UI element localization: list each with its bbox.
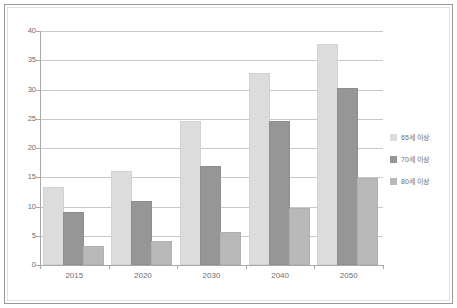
legend-swatch-icon xyxy=(390,156,397,163)
y-axis-line xyxy=(40,31,41,265)
bar xyxy=(43,187,64,265)
bar xyxy=(200,166,221,265)
x-axis-tick-mark xyxy=(246,265,247,269)
bar-group xyxy=(111,31,170,265)
y-axis-tick-mark xyxy=(36,90,40,91)
y-axis-tick-label: 35 xyxy=(12,56,36,64)
x-axis-tick-mark xyxy=(314,265,315,269)
bar xyxy=(317,44,338,265)
y-axis-tick-mark xyxy=(36,31,40,32)
legend-item-label: 70세 이상 xyxy=(401,156,429,163)
legend-item-label: 80세 이상 xyxy=(401,178,429,185)
legend-swatch-icon xyxy=(390,134,397,141)
bar xyxy=(180,121,201,265)
y-axis-tick-label: 25 xyxy=(12,115,36,123)
bar xyxy=(337,88,358,266)
y-axis-tick-mark xyxy=(36,177,40,178)
x-axis-tick-mark xyxy=(177,265,178,269)
bar xyxy=(131,201,152,265)
y-axis-tick-label: 40 xyxy=(12,27,36,35)
legend-item-label: 65세 이상 xyxy=(401,134,429,141)
legend-item: 80세 이상 xyxy=(390,170,452,192)
x-axis-tick-mark xyxy=(109,265,110,269)
legend-item: 70세 이상 xyxy=(390,148,452,170)
bar-group xyxy=(249,31,308,265)
bar xyxy=(357,178,378,265)
bar xyxy=(151,241,172,265)
y-axis-tick-label: 5 xyxy=(12,232,36,240)
y-axis-tick-label: 30 xyxy=(12,86,36,94)
bar xyxy=(83,246,104,265)
chart-figure: 0510152025303540 20152020203020402050 65… xyxy=(0,0,457,308)
y-axis-tick-labels: 0510152025303540 xyxy=(8,0,36,308)
y-axis-tick-label: 0 xyxy=(12,261,36,269)
x-axis-tick-label: 2020 xyxy=(113,272,173,280)
bar xyxy=(289,208,310,265)
y-axis-tick-mark xyxy=(36,119,40,120)
bar xyxy=(220,232,241,265)
x-axis-tick-mark xyxy=(383,265,384,269)
x-axis-tick-label: 2040 xyxy=(250,272,310,280)
x-axis-tick-label: 2050 xyxy=(319,272,379,280)
bar xyxy=(249,73,270,265)
y-axis-tick-mark xyxy=(36,60,40,61)
x-axis-tick-mark xyxy=(40,265,41,269)
y-axis-tick-label: 20 xyxy=(12,144,36,152)
y-axis-tick-mark xyxy=(36,207,40,208)
legend-item: 65세 이상 xyxy=(390,126,452,148)
x-axis-tick-label: 2015 xyxy=(44,272,104,280)
y-axis-tick-label: 10 xyxy=(12,203,36,211)
chart-legend: 65세 이상70세 이상80세 이상 xyxy=(390,126,452,192)
bar xyxy=(111,171,132,265)
y-axis-tick-label: 15 xyxy=(12,173,36,181)
bar xyxy=(269,121,290,265)
bar xyxy=(63,212,84,265)
x-axis-tick-label: 2030 xyxy=(182,272,242,280)
y-axis-tick-mark xyxy=(36,265,40,266)
y-axis-tick-mark xyxy=(36,236,40,237)
bar-group xyxy=(317,31,376,265)
x-axis-line xyxy=(40,265,383,266)
y-axis-tick-mark xyxy=(36,148,40,149)
legend-swatch-icon xyxy=(390,178,397,185)
bar-group xyxy=(180,31,239,265)
bar-group xyxy=(43,31,102,265)
